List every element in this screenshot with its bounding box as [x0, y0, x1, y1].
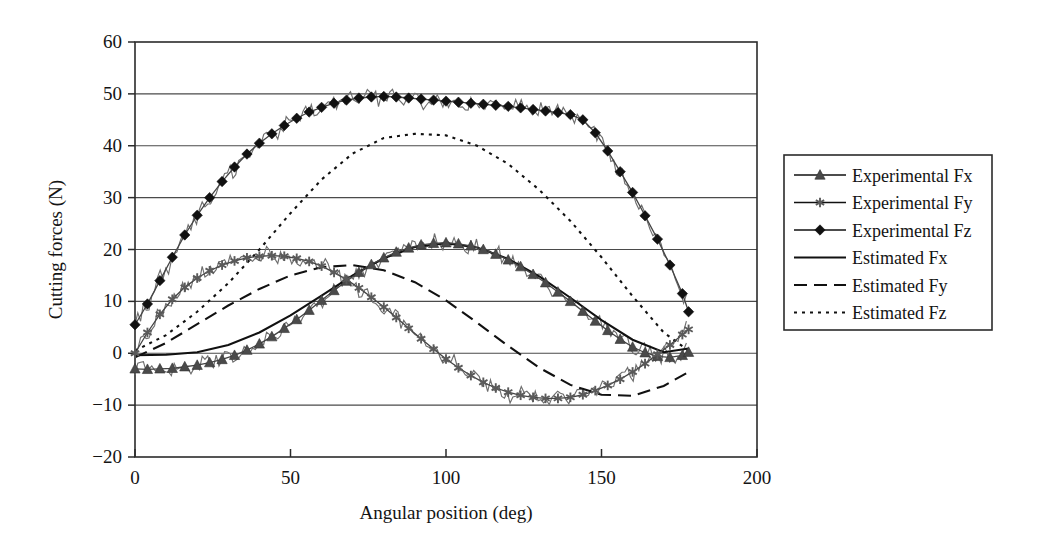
y-tick-label: 60: [103, 31, 122, 52]
y-axis-title: Cutting forces (N): [45, 180, 67, 319]
data-point-diamond: [503, 101, 513, 111]
data-point-diamond: [130, 320, 140, 330]
chart-figure: 6050403020100−10−20 050100150200 Angular…: [0, 0, 1044, 540]
data-point-diamond: [204, 192, 214, 202]
data-point-diamond: [665, 260, 675, 270]
data-point-diamond: [341, 95, 351, 105]
data-point-diamond: [453, 97, 463, 107]
data-series: [130, 89, 694, 404]
legend-label: Experimental Fx: [852, 166, 972, 186]
data-point-diamond: [640, 211, 650, 221]
legend-label: Estimated Fx: [852, 248, 948, 268]
data-point-triangle: [578, 306, 588, 316]
legend-label: Estimated Fy: [852, 276, 948, 296]
data-point-triangle: [441, 237, 451, 247]
data-point-triangle: [254, 339, 264, 349]
y-tick-label: −10: [92, 394, 122, 415]
data-point-diamond: [553, 107, 563, 117]
y-tick-label: −20: [92, 446, 122, 467]
experimental-raw-trace: [135, 89, 686, 324]
x-tick-label: 0: [130, 467, 140, 488]
data-point-diamond: [316, 102, 326, 112]
y-tick-label: 0: [113, 342, 123, 363]
estimated-curve: [135, 243, 689, 355]
experimental-raw-trace: [135, 234, 686, 376]
cutting-forces-chart: 6050403020100−10−20 050100150200 Angular…: [0, 0, 1044, 540]
x-axis-title: Angular position (deg): [359, 502, 532, 524]
data-point-diamond: [683, 307, 693, 317]
data-point-diamond: [267, 129, 277, 139]
data-point-diamond: [615, 166, 625, 176]
data-point-diamond: [565, 109, 575, 119]
y-axis-ticks: 6050403020100−10−20: [92, 31, 135, 467]
legend-label: Experimental Fy: [852, 193, 972, 213]
data-point-triangle: [130, 363, 140, 373]
y-tick-label: 10: [103, 290, 122, 311]
data-point-diamond: [428, 95, 438, 105]
y-tick-label: 30: [103, 187, 122, 208]
legend-label: Experimental Fz: [852, 221, 971, 241]
legend-label: Estimated Fz: [852, 303, 946, 323]
experimental-curve: [135, 96, 689, 324]
y-tick-label: 50: [103, 83, 122, 104]
data-point-asterisk: [467, 371, 475, 381]
data-point-triangle: [267, 331, 277, 341]
x-axis-ticks: 050100150200: [130, 449, 771, 488]
y-tick-label: 20: [103, 239, 122, 260]
x-tick-label: 200: [743, 467, 772, 488]
data-point-diamond: [603, 146, 613, 156]
x-tick-label: 100: [432, 467, 461, 488]
data-point-diamond: [466, 98, 476, 108]
x-tick-label: 50: [281, 467, 300, 488]
chart-legend: Experimental FxExperimental FyExperiment…: [784, 155, 992, 330]
y-tick-label: 40: [103, 135, 122, 156]
data-point-diamond: [167, 252, 177, 262]
x-tick-label: 150: [587, 467, 616, 488]
